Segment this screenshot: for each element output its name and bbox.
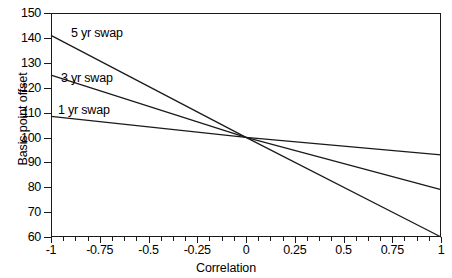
chart-figure: Basis point offset 150 140 130 120 110 1… xyxy=(0,0,452,278)
series-line-3yr xyxy=(51,75,441,189)
series-line-5yr xyxy=(51,35,441,237)
series-label-3yr: 3 yr swap xyxy=(61,71,113,85)
series-line-1yr xyxy=(51,116,441,155)
series-label-5yr: 5 yr swap xyxy=(71,26,123,40)
series-lines xyxy=(0,0,452,278)
series-label-1yr: 1 yr swap xyxy=(58,103,110,117)
x-axis-title: Correlation xyxy=(0,261,452,275)
